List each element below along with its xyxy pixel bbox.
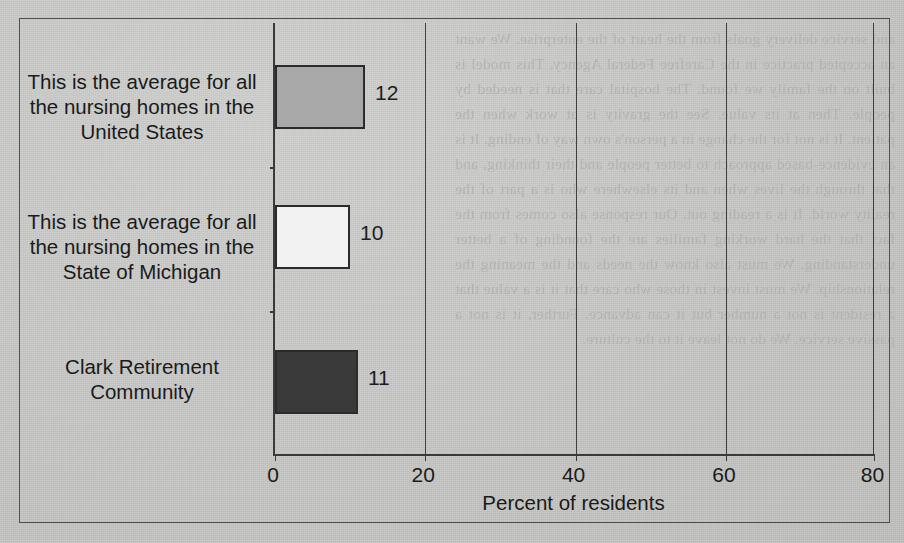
plot-area: 12 10 11 (273, 23, 874, 456)
category-label-line: This is the average for all (17, 209, 267, 234)
x-axis-tick-40 (576, 454, 577, 461)
y-axis-tick (270, 167, 275, 169)
x-axis-label-60: 60 (712, 463, 735, 487)
category-label-clark: Clark Retirement Community (17, 354, 267, 404)
category-label-line: Community (17, 379, 267, 404)
x-axis-tick-0 (275, 454, 276, 461)
x-axis-tick-60 (726, 454, 727, 461)
x-axis-tick-80 (874, 454, 875, 461)
category-label-united-states: This is the average for all the nursing … (17, 69, 267, 144)
chart-frame: This is the average for all the nursing … (19, 18, 890, 523)
category-label-line: United States (17, 119, 267, 144)
category-label-line: the nursing homes in the (17, 94, 267, 119)
x-axis-tick-20 (425, 454, 426, 461)
bar-united-states[interactable] (275, 65, 365, 129)
x-axis-title: Percent of residents (273, 491, 874, 515)
gridline-60 (726, 23, 727, 454)
category-label-line: the nursing homes in the (17, 234, 267, 259)
bar-value-clark-retirement: 11 (368, 366, 390, 390)
category-label-line: This is the average for all (17, 69, 267, 94)
x-axis-label-0: 0 (267, 463, 279, 487)
category-label-line: Clark Retirement (17, 354, 267, 379)
bar-michigan[interactable] (275, 205, 350, 269)
x-axis-label-80: 80 (861, 463, 884, 487)
page-top-cut-text (180, 0, 600, 12)
category-label-line: State of Michigan (17, 259, 267, 284)
gridline-20 (425, 23, 426, 454)
bar-value-michigan: 10 (360, 221, 383, 245)
x-axis-label-40: 40 (562, 463, 585, 487)
bar-clark-retirement[interactable] (275, 350, 358, 414)
bar-value-united-states: 12 (375, 81, 398, 105)
x-axis-label-20: 20 (412, 463, 435, 487)
y-axis-tick (270, 311, 275, 313)
gridline-40 (576, 23, 577, 454)
category-label-michigan: This is the average for all the nursing … (17, 209, 267, 284)
